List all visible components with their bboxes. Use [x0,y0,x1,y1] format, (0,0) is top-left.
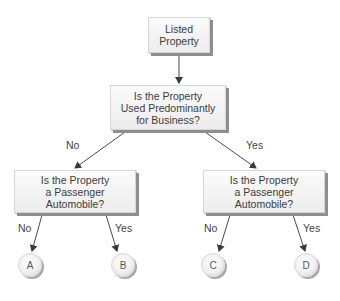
outcome-label: B [120,260,127,271]
outcome-label: A [27,260,34,271]
edge-label-business-yes: Yes [246,139,263,151]
node-label: Listed Property [159,23,199,47]
outcome-node-d: D [294,253,318,277]
node-listed-property: Listed Property [148,17,210,53]
edge-label-left-yes: Yes [115,222,132,234]
node-label: Is the Property a Passenger Automobile? [41,174,109,210]
edge-label-business-no: No [66,139,79,151]
node-label: Is the Property Used Predominantly for B… [121,90,216,126]
outcome-node-a: A [18,253,42,277]
node-business-question: Is the Property Used Predominantly for B… [110,85,226,130]
edge-label-right-yes: Yes [303,222,320,234]
edge-label-left-no: No [18,222,31,234]
outcome-label: C [209,260,216,271]
node-label: Is the Property a Passenger Automobile? [230,174,298,210]
outcome-label: D [302,260,309,271]
outcome-node-c: C [201,253,225,277]
edge-label-right-no: No [204,222,217,234]
outcome-node-b: B [111,253,135,277]
node-left-automobile-question: Is the Property a Passenger Automobile? [14,170,136,213]
node-right-automobile-question: Is the Property a Passenger Automobile? [203,170,325,213]
